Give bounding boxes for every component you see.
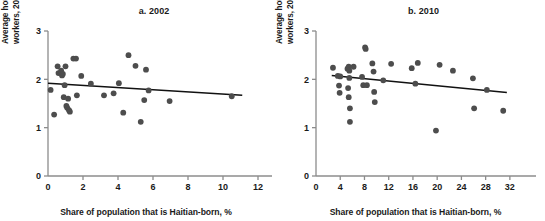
data-point — [470, 75, 476, 81]
x-tick-label: 16 — [408, 182, 418, 192]
data-point — [146, 88, 152, 94]
data-point — [364, 82, 370, 88]
data-point — [433, 128, 439, 134]
data-point — [437, 62, 443, 68]
data-point — [347, 105, 353, 111]
data-point — [116, 80, 122, 86]
data-point — [359, 74, 365, 80]
data-point — [60, 71, 66, 77]
data-point — [88, 81, 94, 87]
data-point — [412, 81, 418, 87]
figure-two-panel-scatter: a. 2002 Average hourly wage for Dominica… — [0, 0, 545, 221]
x-tick-label: 24 — [456, 182, 466, 192]
data-point — [371, 69, 377, 75]
data-point — [346, 75, 352, 81]
data-point — [415, 60, 421, 66]
x-tick-label: 6 — [150, 182, 155, 192]
data-point — [111, 90, 117, 96]
panel-b-x-axis-label: Share of population that is Haitian-born… — [272, 207, 545, 217]
panel-b-2010: b. 2010 Average hourly wage for Dominica… — [272, 0, 545, 221]
x-tick-label: 12 — [384, 182, 394, 192]
panel-a-x-axis-label: Share of population that is Haitian-born… — [0, 207, 272, 217]
data-point — [363, 46, 369, 52]
x-tick-label: 0 — [45, 182, 50, 192]
panel-a-2002: a. 2002 Average hourly wage for Dominica… — [0, 0, 272, 221]
y-tick-label: 0 — [304, 171, 309, 181]
panel-a-plot-area: 0123024681012 — [0, 0, 272, 221]
data-point — [347, 119, 353, 125]
data-point — [484, 87, 490, 93]
data-point — [337, 74, 343, 80]
data-point — [500, 108, 506, 114]
data-point — [141, 97, 147, 103]
y-tick-label: 0 — [36, 171, 41, 181]
y-tick-label: 3 — [36, 26, 41, 36]
data-point — [450, 68, 456, 74]
x-tick-label: 4 — [115, 182, 120, 192]
data-point — [388, 61, 394, 67]
data-point — [380, 77, 386, 83]
x-tick-label: 12 — [253, 182, 263, 192]
y-tick-label: 1 — [304, 123, 309, 133]
x-tick-label: 0 — [313, 182, 318, 192]
data-point — [63, 63, 69, 69]
data-point — [409, 65, 415, 71]
x-tick-label: 8 — [185, 182, 190, 192]
x-tick-label: 20 — [432, 182, 442, 192]
panel-b-plot-area: 0123048121620242832 — [272, 0, 545, 221]
x-tick-label: 32 — [505, 182, 515, 192]
data-point — [65, 96, 71, 102]
data-point — [138, 119, 144, 125]
x-tick-label: 4 — [338, 182, 343, 192]
data-point — [229, 93, 235, 99]
y-tick-label: 1 — [36, 123, 41, 133]
x-tick-label: 2 — [80, 182, 85, 192]
data-point — [371, 89, 377, 95]
data-point — [337, 90, 343, 96]
y-tick-label: 3 — [304, 26, 309, 36]
data-point — [143, 67, 149, 73]
data-point — [345, 85, 351, 91]
data-point — [167, 98, 173, 104]
data-point — [336, 83, 342, 89]
data-point — [62, 82, 68, 88]
data-point — [74, 92, 80, 98]
data-point — [101, 92, 107, 98]
data-point — [126, 52, 132, 58]
data-point — [51, 112, 57, 118]
data-point — [471, 105, 477, 111]
data-point — [372, 99, 378, 105]
data-point — [369, 60, 375, 66]
data-point — [330, 65, 336, 71]
y-tick-label: 2 — [36, 75, 41, 85]
x-tick-label: 10 — [218, 182, 228, 192]
data-point — [73, 56, 79, 62]
data-point — [351, 64, 357, 70]
data-point — [120, 110, 126, 116]
data-point — [133, 63, 139, 69]
x-tick-label: 8 — [362, 182, 367, 192]
data-point — [67, 109, 73, 115]
y-tick-label: 2 — [304, 75, 309, 85]
trend-line — [332, 75, 507, 92]
data-point — [346, 94, 352, 100]
data-point — [48, 87, 54, 93]
data-point — [78, 73, 84, 79]
x-tick-label: 28 — [481, 182, 491, 192]
